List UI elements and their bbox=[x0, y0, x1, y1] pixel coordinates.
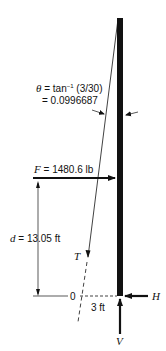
force-label: F = 1480.6 lb bbox=[33, 163, 94, 175]
offset-label: 3 ft bbox=[91, 302, 105, 313]
tension-extension-dashed bbox=[78, 262, 87, 322]
tension-label: T bbox=[74, 250, 81, 262]
pole-free-body-diagram: θ = tan−1 (3/30) = 0.0996687 F = 1480.6 … bbox=[0, 0, 166, 351]
origin-label: 0 bbox=[70, 291, 76, 302]
theta-value: = 0.0996687 bbox=[42, 95, 98, 106]
horizontal-reaction-label: H bbox=[151, 290, 161, 302]
tension-arrow-head bbox=[86, 250, 91, 258]
tension-cable bbox=[88, 19, 118, 257]
distance-label: d = 13.05 ft bbox=[10, 232, 60, 244]
theta-label: θ = tan−1 (3/30) bbox=[36, 82, 102, 94]
pole-pointer bbox=[126, 112, 138, 115]
vertical-reaction-label: V bbox=[116, 335, 124, 347]
pole bbox=[117, 18, 123, 296]
theta-pointer bbox=[92, 110, 104, 114]
distance-arrow-bottom bbox=[36, 289, 40, 296]
distance-arrow-top bbox=[36, 181, 40, 188]
